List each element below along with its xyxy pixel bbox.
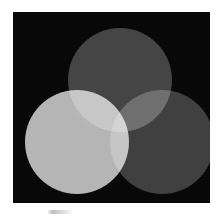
venn-stage <box>13 12 210 203</box>
venn-circle-right <box>110 90 210 194</box>
figure-root <box>0 0 221 220</box>
venn-panel <box>13 12 210 203</box>
caption-smudge <box>47 210 73 214</box>
